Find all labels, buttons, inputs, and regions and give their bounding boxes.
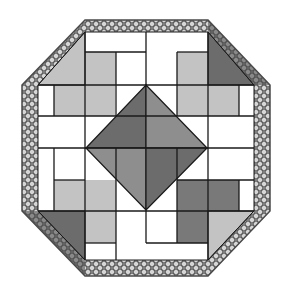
right-white-cell-a xyxy=(239,85,254,116)
top-white-cell-c xyxy=(146,32,177,85)
top-white-cell-a xyxy=(85,32,146,52)
top-white-cell-d xyxy=(177,32,208,52)
bottom-right-dark-rect xyxy=(177,211,208,243)
quilt-block-diagram xyxy=(0,0,288,281)
bottom-white-a xyxy=(85,243,116,260)
top-white-cell-b xyxy=(116,52,146,85)
right-lower-white-b xyxy=(239,180,254,211)
left-white-cell-a xyxy=(38,85,54,116)
left-lower-rect xyxy=(54,180,85,211)
bottom-white-c xyxy=(146,211,177,243)
left-lower-white-b xyxy=(54,148,85,180)
bottom-white-d xyxy=(146,243,208,260)
left-lower-white-a xyxy=(38,148,54,211)
quilt-svg xyxy=(0,0,288,281)
top-right-upper-rect xyxy=(177,52,208,116)
top-left-upper-rect xyxy=(85,52,116,85)
right-upper-rect xyxy=(208,85,239,116)
